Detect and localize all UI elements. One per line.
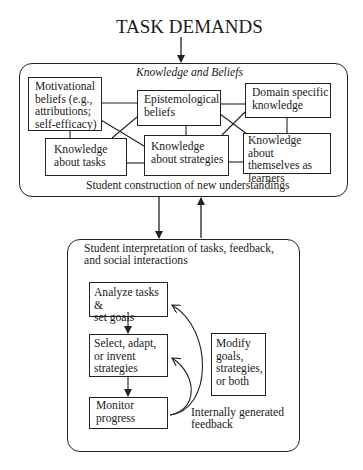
knowledge-tasks-label: Knowledge about tasks — [54, 144, 107, 169]
knowledge-learners-label: Knowledge about themselves as learners — [248, 135, 330, 185]
box-analyze-tasks: Analyze tasks & set goals — [89, 282, 168, 317]
epistemological-beliefs-label: Epistemological beliefs — [144, 94, 219, 119]
monitor-progress-label: Monitor progress — [96, 400, 135, 425]
box-modify-goals: Modify goals, strategies, or both — [211, 333, 266, 396]
box-select-strategies: Select, adapt, or invent strategies — [89, 334, 168, 377]
motivational-beliefs-label: Motivational beliefs (e.g., attributions… — [35, 81, 97, 131]
knowledge-strategies-label: Knowledge about strategies — [151, 141, 223, 166]
construction-footer: Student construction of new understandin… — [86, 180, 290, 192]
select-strategies-label: Select, adapt, or invent strategies — [94, 338, 156, 376]
box-knowledge-tasks: Knowledge about tasks — [45, 138, 127, 176]
modify-goals-label: Modify goals, strategies, or both — [216, 338, 263, 388]
knowledge-beliefs-heading: Knowledge and Beliefs — [136, 67, 243, 79]
analyze-tasks-label: Analyze tasks & set goals — [94, 287, 167, 325]
interpretation-heading: Student interpretation of tasks, feedbac… — [84, 243, 274, 267]
task-demands-title: TASK DEMANDS — [116, 17, 263, 37]
box-knowledge-learners: Knowledge about themselves as learners — [243, 133, 331, 174]
box-knowledge-strategies: Knowledge about strategies — [144, 135, 229, 176]
domain-knowledge-label: Domain specific knowledge — [252, 87, 328, 112]
internal-feedback-label: Internally generated feedback — [191, 407, 284, 431]
box-motivational-beliefs: Motivational beliefs (e.g., attributions… — [28, 77, 102, 131]
box-epistemological-beliefs: Epistemological beliefs — [137, 90, 221, 126]
box-domain-knowledge: Domain specific knowledge — [245, 83, 331, 118]
box-monitor-progress: Monitor progress — [89, 397, 168, 429]
